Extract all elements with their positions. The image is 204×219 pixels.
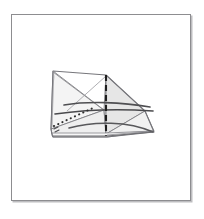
illustration-frame — [11, 14, 191, 201]
screenshot-canvas — [0, 0, 204, 219]
folded-paper-diagram — [12, 15, 192, 202]
figure-container — [12, 15, 192, 202]
